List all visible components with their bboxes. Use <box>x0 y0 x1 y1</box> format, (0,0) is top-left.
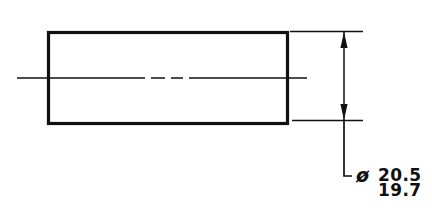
dimension-arrow-down-icon <box>340 104 347 120</box>
dimension-leader-line <box>344 120 352 176</box>
dimension-lower-limit: 19.7 <box>378 180 422 200</box>
dimension-arrow-up-icon <box>340 32 347 48</box>
technical-drawing-canvas: ø 20.5 19.7 <box>0 0 432 219</box>
drawing-svg: ø 20.5 19.7 <box>0 0 432 219</box>
diameter-symbol: ø <box>355 164 370 186</box>
